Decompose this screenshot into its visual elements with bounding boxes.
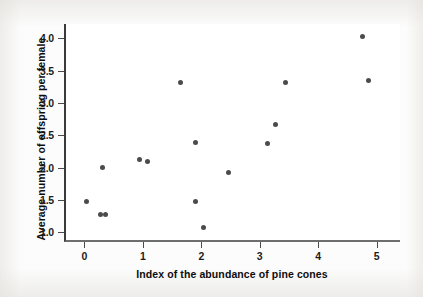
data-point <box>84 199 89 204</box>
data-point <box>273 122 278 127</box>
y-tick-label: 3.0 <box>14 97 54 109</box>
y-tick-label: 1.0 <box>14 226 54 238</box>
x-axis-title: Index of the abundance of pine cones <box>64 268 400 280</box>
y-tick-label: 3.5 <box>14 65 54 77</box>
x-tick-label: 5 <box>362 250 392 262</box>
data-point <box>360 34 365 39</box>
x-tick-label: 1 <box>128 250 158 262</box>
data-point <box>193 199 198 204</box>
x-tick-label: 0 <box>69 250 99 262</box>
data-point <box>100 165 105 170</box>
data-point <box>283 80 288 85</box>
y-tick-label: 2.0 <box>14 162 54 174</box>
x-tick-mark <box>201 242 202 248</box>
scatter-plot-figure: Average number of offspring per female 1… <box>0 0 423 297</box>
data-point <box>103 212 108 217</box>
x-tick-label: 2 <box>186 250 216 262</box>
x-tick-mark <box>318 242 319 248</box>
data-point <box>201 225 206 230</box>
data-point <box>193 140 198 145</box>
y-tick-label: 1.5 <box>14 194 54 206</box>
data-point <box>145 159 150 164</box>
x-tick-label: 3 <box>245 250 275 262</box>
x-tick-mark <box>377 242 378 248</box>
y-tick-label: 4.0 <box>14 32 54 44</box>
data-point <box>178 80 183 85</box>
data-point <box>98 212 103 217</box>
x-tick-mark <box>260 242 261 248</box>
data-point <box>366 78 371 83</box>
x-tick-label: 4 <box>303 250 333 262</box>
x-tick-mark <box>143 242 144 248</box>
data-point <box>137 157 142 162</box>
data-point <box>226 170 231 175</box>
x-tick-mark <box>84 242 85 248</box>
y-tick-label: 2.5 <box>14 129 54 141</box>
plot-area <box>66 24 400 240</box>
plot-frame <box>64 24 400 242</box>
data-point <box>265 141 270 146</box>
